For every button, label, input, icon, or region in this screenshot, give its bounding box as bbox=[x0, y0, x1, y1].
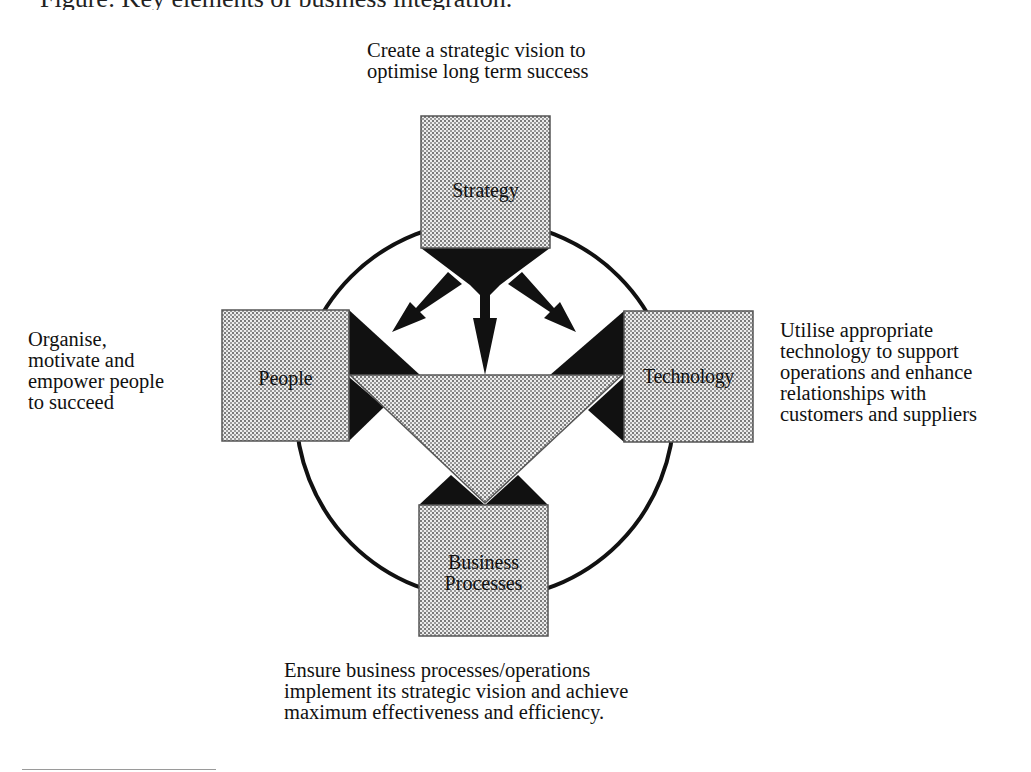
central-triangle bbox=[350, 375, 622, 503]
technology-caption: Utilise appropriate technology to suppor… bbox=[780, 320, 977, 425]
strategy-caption: Create a strategic vision to optimise lo… bbox=[367, 40, 588, 82]
people-caption: Organise, motivate and empower people to… bbox=[28, 329, 164, 413]
people-label: People bbox=[222, 368, 349, 389]
business-processes-label: Business Processes bbox=[419, 552, 548, 594]
strategy-label: Strategy bbox=[421, 180, 550, 201]
technology-label: Technology bbox=[624, 366, 753, 387]
strategy-arrows bbox=[392, 248, 576, 375]
business-processes-caption: Ensure business processes/operations imp… bbox=[284, 660, 628, 723]
footnote-rule bbox=[22, 769, 216, 770]
